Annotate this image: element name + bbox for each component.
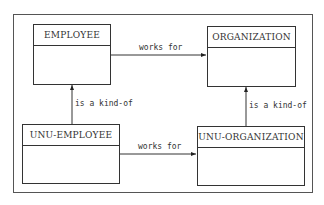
relation-label-works-for-top: works for [139,43,182,52]
relation-label-kind-of-right: is a kind-of [249,101,307,110]
entity-title: UNU-EMPLOYEE [23,125,119,146]
entity-employee: EMPLOYEE [33,24,111,85]
entity-title: ORGANIZATION [208,27,295,48]
entity-unu-employee: UNU-EMPLOYEE [22,124,120,184]
entity-unu-organization: UNU-ORGANIZATION [197,126,305,186]
relation-label-kind-of-left: is a kind-of [75,99,133,108]
entity-title: UNU-ORGANIZATION [198,127,304,148]
entity-title: EMPLOYEE [34,25,110,46]
entity-organization: ORGANIZATION [207,26,296,87]
relation-label-works-for-bottom: works for [138,142,181,151]
